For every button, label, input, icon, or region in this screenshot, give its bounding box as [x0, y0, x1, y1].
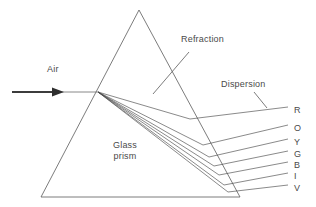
label-glass: Glass: [108, 140, 142, 151]
emergent-ray-violet: [228, 185, 288, 192]
emergent-rays: [190, 107, 288, 192]
emergent-ray-indigo: [224, 173, 288, 185]
emergent-ray-red: [190, 107, 288, 119]
spectrum-letter-red: R: [294, 106, 304, 115]
internal-ray-blue: [98, 92, 219, 175]
spectrum-letter-orange: O: [294, 124, 304, 133]
diagram-canvas: [0, 0, 316, 207]
spectrum-letter-indigo: I: [294, 172, 304, 181]
spectrum-letter-blue: B: [294, 161, 304, 170]
refraction-leader-line: [153, 52, 189, 94]
label-prism: prism: [108, 151, 142, 162]
label-air: Air: [47, 64, 59, 75]
internal-ray-indigo: [98, 92, 224, 185]
dispersion-leader-line: [254, 92, 267, 108]
label-dispersion: Dispersion: [221, 79, 266, 90]
emergent-ray-blue: [219, 162, 288, 175]
spectrum-letter-green: G: [294, 150, 304, 159]
ray-arrowhead: [52, 88, 64, 97]
spectrum-letter-yellow: Y: [294, 138, 304, 147]
prism-dispersion-diagram: Air Refraction Dispersion Glass prism RO…: [0, 0, 316, 207]
incident-ray: [12, 88, 98, 97]
label-refraction: Refraction: [181, 34, 224, 45]
emergent-ray-yellow: [209, 139, 288, 157]
spectrum-letter-violet: V: [294, 184, 304, 193]
